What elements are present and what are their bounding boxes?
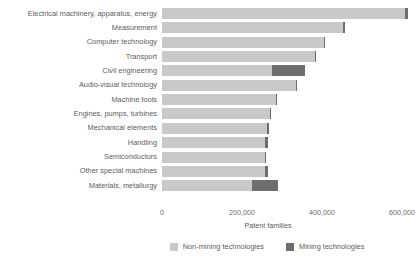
x-axis-title-label: Patent families bbox=[126, 221, 291, 230]
bar-segment-non-mining[interactable] bbox=[162, 166, 265, 177]
bar-segment-non-mining[interactable] bbox=[162, 180, 252, 191]
bar-row: Audio-visual technology bbox=[162, 80, 410, 91]
bar-row: Materials, metallurgy bbox=[162, 180, 410, 191]
bar-row: Measurement bbox=[162, 22, 410, 33]
chart-legend: Non-mining technologiesMining technologi… bbox=[0, 243, 418, 251]
bar-segment-mining[interactable] bbox=[276, 94, 278, 105]
category-label: Mechanical elements bbox=[88, 125, 157, 132]
legend-label: Non-mining technologies bbox=[183, 243, 264, 250]
x-axis-title: Patent families bbox=[0, 222, 418, 229]
bar-row: Engines, pumps, turbines bbox=[162, 108, 410, 119]
plot-area: Electrical machinery, apparatus, energyM… bbox=[162, 8, 410, 206]
bar-row: Civil engineering bbox=[162, 65, 410, 76]
category-label: Measurement bbox=[112, 24, 157, 31]
patent-families-bar-chart: Electrical machinery, apparatus, energyM… bbox=[0, 0, 418, 264]
bar-segment-non-mining[interactable] bbox=[162, 8, 405, 19]
bar-segment-mining[interactable] bbox=[272, 65, 305, 76]
category-label: Audio-visual technology bbox=[79, 82, 157, 89]
bar-segment-non-mining[interactable] bbox=[162, 94, 276, 105]
x-axis-tick-label: 400,000 bbox=[309, 209, 335, 216]
bar-segment-mining[interactable] bbox=[252, 180, 278, 191]
category-label: Engines, pumps, turbines bbox=[74, 110, 157, 117]
legend-swatch-non-mining bbox=[170, 243, 178, 251]
category-label: Machine tools bbox=[111, 96, 157, 103]
bar-segment-mining[interactable] bbox=[265, 166, 267, 177]
category-label: Civil engineering bbox=[102, 67, 157, 74]
x-axis-tick-label: 600,000 bbox=[389, 209, 415, 216]
category-label: Computer technology bbox=[87, 38, 157, 45]
bar-segment-mining[interactable] bbox=[265, 137, 267, 148]
bar-row: Semiconductors bbox=[162, 152, 410, 163]
bar-row: Transport bbox=[162, 51, 410, 62]
bar-segment-non-mining[interactable] bbox=[162, 152, 265, 163]
legend-item[interactable]: Non-mining technologies bbox=[170, 243, 264, 251]
bar-segment-non-mining[interactable] bbox=[162, 137, 265, 148]
bar-row: Machine tools bbox=[162, 94, 410, 105]
category-label: Other special machines bbox=[80, 168, 157, 175]
bar-segment-mining[interactable] bbox=[265, 152, 266, 163]
x-axis-tick-label: 0 bbox=[160, 209, 164, 216]
bar-row: Handling bbox=[162, 137, 410, 148]
bar-row: Mechanical elements bbox=[162, 123, 410, 134]
category-label: Handling bbox=[128, 139, 157, 146]
category-label: Materials, metallurgy bbox=[89, 182, 157, 189]
bar-segment-mining[interactable] bbox=[315, 51, 317, 62]
bar-segment-non-mining[interactable] bbox=[162, 37, 324, 48]
bar-segment-non-mining[interactable] bbox=[162, 123, 267, 134]
bar-segment-non-mining[interactable] bbox=[162, 80, 296, 91]
bar-segment-mining[interactable] bbox=[343, 22, 345, 33]
category-label: Semiconductors bbox=[104, 153, 157, 160]
bar-row: Electrical machinery, apparatus, energy bbox=[162, 8, 410, 19]
bar-row: Other special machines bbox=[162, 166, 410, 177]
bar-segment-non-mining[interactable] bbox=[162, 65, 272, 76]
legend-swatch-mining bbox=[286, 243, 294, 251]
category-label: Electrical machinery, apparatus, energy bbox=[28, 10, 157, 17]
category-label: Transport bbox=[126, 53, 157, 60]
bar-segment-mining[interactable] bbox=[324, 37, 325, 48]
x-axis-tick-label: 200,000 bbox=[229, 209, 255, 216]
bar-segment-non-mining[interactable] bbox=[162, 51, 315, 62]
legend-label: Mining technologies bbox=[299, 243, 364, 250]
bar-row: Computer technology bbox=[162, 37, 410, 48]
bar-segment-mining[interactable] bbox=[270, 108, 271, 119]
legend-item[interactable]: Mining technologies bbox=[286, 243, 364, 251]
bar-segment-mining[interactable] bbox=[296, 80, 297, 91]
bar-segment-mining[interactable] bbox=[405, 8, 408, 19]
bar-segment-mining[interactable] bbox=[267, 123, 269, 134]
bar-segment-non-mining[interactable] bbox=[162, 22, 343, 33]
bar-segment-non-mining[interactable] bbox=[162, 108, 270, 119]
